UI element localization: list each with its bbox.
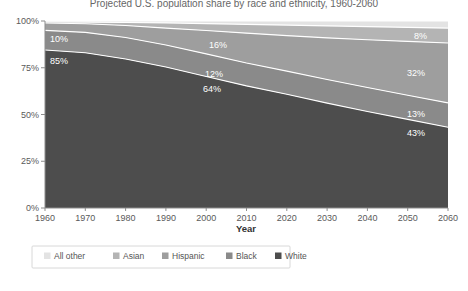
x-tick-label: 1980 <box>116 213 136 223</box>
y-tick-label: 75% <box>21 63 39 73</box>
legend-label-all-other[interactable]: All other <box>54 251 85 261</box>
x-tick-label: 1990 <box>156 213 176 223</box>
label-hispanic-mid: 16% <box>209 40 227 50</box>
x-axis-ticks: 1960197019801990200020102020203020402050… <box>35 208 458 223</box>
legend-label-hispanic[interactable]: Hispanic <box>172 251 205 261</box>
x-tick-label: 2040 <box>357 213 377 223</box>
x-tick-label: 2000 <box>196 213 216 223</box>
legend-swatch-black[interactable] <box>226 253 233 260</box>
x-tick-label: 1960 <box>35 213 55 223</box>
legend-swatch-hispanic[interactable] <box>162 253 169 260</box>
chart-canvas: Projected U.S. population share by race … <box>0 0 468 291</box>
legend-label-asian[interactable]: Asian <box>123 251 145 261</box>
label-black-right: 13% <box>407 109 425 119</box>
label-hispanic-right: 32% <box>407 68 425 78</box>
legend-label-white[interactable]: White <box>285 251 307 261</box>
y-tick-label: 0% <box>26 203 39 213</box>
y-tick-label: 100% <box>16 16 39 26</box>
legend-label-black[interactable]: Black <box>236 251 258 261</box>
y-tick-label: 25% <box>21 156 39 166</box>
legend-swatch-all-other[interactable] <box>44 253 51 260</box>
x-tick-label: 2020 <box>277 213 297 223</box>
label-black-mid: 12% <box>205 69 223 79</box>
label-white-mid: 64% <box>203 84 221 94</box>
x-tick-label: 2050 <box>398 213 418 223</box>
x-tick-label: 2060 <box>438 213 458 223</box>
y-tick-label: 50% <box>21 110 39 120</box>
label-white-right: 43% <box>407 128 425 138</box>
label-hispanic-left: 10% <box>50 34 68 44</box>
chart-title: Projected U.S. population share by race … <box>90 0 379 9</box>
label-asian-right: 8% <box>414 31 427 41</box>
y-axis-ticks: 0%25%50%75%100% <box>16 16 45 213</box>
legend-swatch-asian[interactable] <box>113 253 120 260</box>
area-series-group <box>45 21 448 208</box>
x-tick-label: 1970 <box>75 213 95 223</box>
stacked-area-chart: Projected U.S. population share by race … <box>0 0 468 291</box>
x-tick-label: 2010 <box>236 213 256 223</box>
legend-swatch-white[interactable] <box>275 253 282 260</box>
label-white-left: 85% <box>50 56 68 66</box>
x-tick-label: 2030 <box>317 213 337 223</box>
x-axis-title: Year <box>236 223 256 234</box>
